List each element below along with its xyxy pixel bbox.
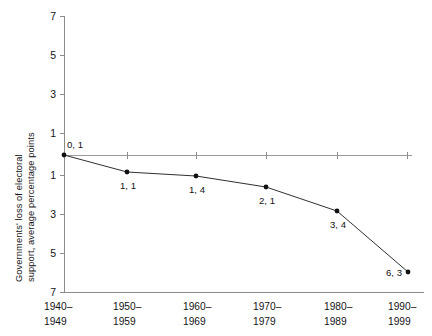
y-tick-label: 3: [50, 88, 56, 100]
x-tick-label-top: 1940–: [44, 301, 73, 312]
data-point-markers: [62, 153, 411, 275]
data-point-label: 2, 1: [259, 195, 275, 206]
x-tick-label-top: 1970–: [253, 301, 282, 312]
x-tick-label-bottom: 1959: [113, 316, 136, 327]
data-point-marker[interactable]: [335, 209, 340, 214]
x-tick-label-top: 1980–: [324, 301, 353, 312]
data-point-marker[interactable]: [62, 153, 67, 158]
y-tick-label: 5: [50, 247, 56, 259]
y-tick-label: 5: [50, 49, 56, 61]
chart-container: Governments' loss of electoral support, …: [0, 0, 432, 336]
data-series-line: [64, 155, 408, 272]
y-tick-label: 7: [50, 10, 56, 22]
y-tick-label: 1: [50, 127, 56, 139]
data-point-marker[interactable]: [264, 185, 269, 190]
y-tick-label: 1: [50, 169, 56, 181]
data-point-labels: 0, 1 1, 1 1, 4 2, 1 3, 4 6, 3: [67, 139, 402, 278]
data-point-label: 1, 1: [120, 180, 136, 191]
y-tick-label: 3: [50, 208, 56, 220]
data-point-label: 0, 1: [67, 139, 83, 150]
x-tick-label-bottom: 1949: [44, 316, 67, 327]
x-tick-label-top: 1990–: [388, 301, 417, 312]
x-tick-label-bottom: 1999: [388, 316, 411, 327]
y-tick-label: 7: [50, 286, 56, 298]
x-tick-label-top: 1960–: [183, 301, 212, 312]
x-tick-label-top: 1950–: [113, 301, 142, 312]
data-point-label: 3, 4: [330, 219, 347, 230]
line-chart-plot: 7 5 3 1 1 3 5 7: [0, 0, 432, 336]
data-point-label: 1, 4: [189, 184, 206, 195]
data-point-label: 6, 3: [386, 267, 402, 278]
x-tick-label-bottom: 1979: [253, 316, 276, 327]
y-axis-tick-labels: 7 5 3 1 1 3 5 7: [50, 10, 56, 298]
data-point-marker[interactable]: [125, 170, 130, 175]
x-tick-label-bottom: 1969: [183, 316, 206, 327]
data-point-marker[interactable]: [406, 270, 411, 275]
data-point-marker[interactable]: [194, 174, 199, 179]
x-axis-tick-labels: 1940– 1949 1950– 1959 1960– 1969 1970– 1…: [44, 301, 417, 327]
x-tick-label-bottom: 1989: [324, 316, 347, 327]
